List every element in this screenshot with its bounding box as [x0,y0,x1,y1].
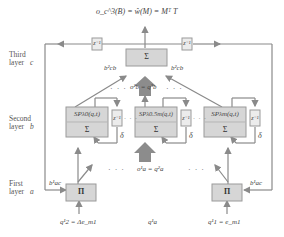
delay-label-mid: z⁻¹ [181,114,191,121]
delta-label-m: δ [258,131,262,140]
sp-label-0: SPλ0(q,t) [66,110,108,118]
pi-label-right: Π [212,187,242,196]
delay-label-top-left: z⁻¹ [92,39,102,46]
sp-label-mid: SPλ0.5m(q,t) [135,110,177,117]
sp-sum-0: Σ [66,125,108,134]
ellipsis: · · · [124,116,138,122]
layer-word: layer [9,187,24,196]
layer-label-first: First layer a [9,180,34,196]
layer-label-third: Third layer c [9,51,33,67]
input-label-middle: q¹a [148,218,157,226]
output-equation: o_c^3(B) = ŵ(M) = Mᵀ T [96,7,177,16]
layer-label-second: Second layer b [9,115,34,131]
delay-label-0: z⁻¹ [112,114,122,121]
sp-label-m: SPλm(q,t) [204,110,246,118]
input-label-left: q¹2 = Δe_m1 [60,218,97,226]
ellipsis: · · · [110,84,127,93]
sp-sum-mid: Σ [135,125,177,134]
big-arrow-lower [134,142,156,162]
layer-symbol: a [30,187,34,196]
input-label-right: q¹1 = e_m1 [208,218,240,226]
delta-label-mid: δ [189,131,193,140]
layer-symbol: c [30,58,33,67]
second-link-equation: o²b = q³b [130,83,156,91]
weight-label-first-right: b¹ac [250,179,262,187]
weight-label-right: b²cb [171,64,183,72]
layer-word: layer [9,58,24,67]
diagram-canvas [0,0,284,237]
weight-label-left: b²cb [104,64,116,72]
ellipsis: · · · [166,84,183,93]
ellipsis: · · · [188,165,205,174]
weight-label-first-left: b¹ac [49,179,61,187]
pi-label-left: Π [66,187,96,196]
delta-label-0: δ [120,131,124,140]
layer-word: layer [9,122,24,131]
layer-symbol: b [30,122,34,131]
third-layer-sum-label: Σ [126,52,167,61]
first-link-equation: o¹a = q²a [137,165,163,173]
delay-label-m: z⁻¹ [250,114,260,121]
ellipsis: · · · [108,165,125,174]
sp-sum-m: Σ [204,125,246,134]
ellipsis: · · · [193,116,207,122]
delay-label-top-right: z⁻¹ [182,39,192,46]
